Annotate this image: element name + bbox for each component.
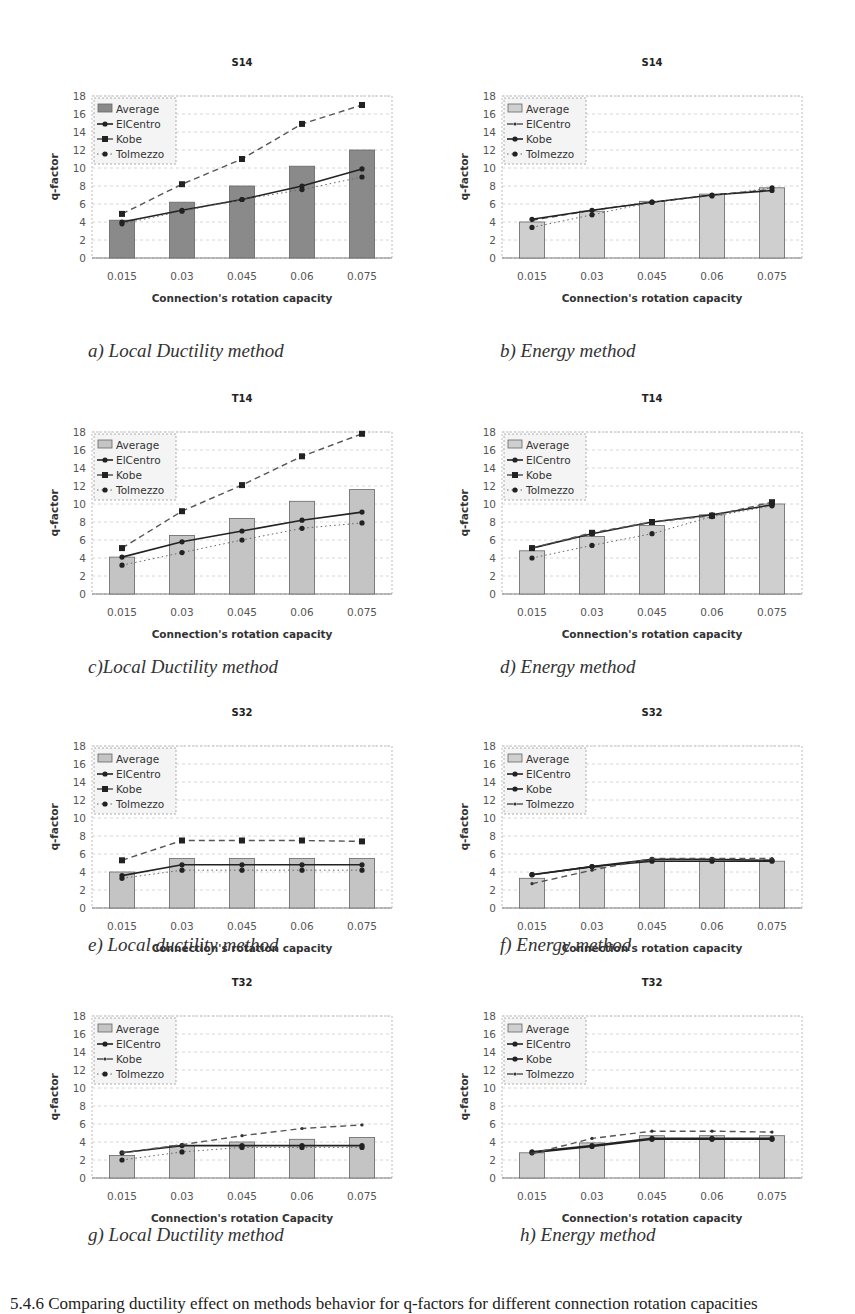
legend-entry: ElCentro — [116, 768, 161, 780]
x-tick-label: 0.075 — [757, 270, 787, 282]
y-tick-label: 14 — [73, 462, 87, 474]
x-tick-label: 0.015 — [517, 1190, 547, 1202]
y-tick-label: 12 — [73, 480, 86, 492]
y-tick-label: 14 — [483, 126, 497, 138]
y-axis-label: q-factor — [48, 153, 60, 201]
chart-title: T14 — [642, 393, 663, 404]
y-tick-label: 0 — [79, 902, 86, 914]
dot-marker-icon — [299, 862, 304, 867]
y-axis-label: q-factor — [458, 153, 470, 201]
dot-marker-icon — [360, 1123, 363, 1126]
y-tick-label: 12 — [73, 144, 86, 156]
dot-marker-icon — [239, 868, 244, 873]
square-marker-icon — [179, 181, 185, 187]
square-marker-icon — [512, 472, 518, 478]
dot-marker-icon — [512, 786, 517, 791]
y-tick-label: 2 — [489, 1154, 496, 1166]
x-axis-label: Connection's rotation Capacity — [151, 1212, 333, 1224]
y-tick-label: 12 — [483, 480, 496, 492]
x-tick-label: 0.03 — [580, 270, 603, 282]
dot-marker-icon — [239, 528, 244, 533]
square-marker-icon — [179, 838, 185, 844]
chart-legend: AverageElCentroKobeTolmezzo — [94, 748, 176, 814]
legend-entry: Average — [116, 753, 159, 765]
dot-marker-icon — [359, 510, 364, 515]
dot-marker-icon — [709, 514, 714, 519]
y-tick-label: 2 — [79, 570, 86, 582]
x-tick-label: 0.075 — [347, 270, 377, 282]
y-tick-label: 0 — [79, 588, 86, 600]
square-marker-icon — [359, 838, 365, 844]
legend-entry: Tolmezzo — [525, 148, 574, 160]
dot-marker-icon — [529, 217, 534, 222]
chart-legend: AverageElCentroKobeTolmezzo — [94, 98, 176, 164]
bar-average — [759, 188, 784, 258]
dot-marker-icon — [512, 1056, 517, 1061]
legend-entry: Tolmezzo — [115, 148, 164, 160]
bar-average — [639, 1136, 664, 1178]
dot-marker-icon — [529, 225, 534, 230]
legend-entry: ElCentro — [116, 118, 161, 130]
dot-marker-icon — [590, 869, 593, 872]
legend-entry: Average — [526, 439, 569, 451]
legend-swatch-icon — [98, 1024, 112, 1032]
x-tick-label: 0.045 — [227, 606, 257, 618]
legend-entry: ElCentro — [526, 1038, 571, 1050]
dot-marker-icon — [299, 1145, 304, 1150]
caption-a: a) Local Ductility method — [88, 340, 284, 362]
square-marker-icon — [589, 530, 595, 536]
legend-entry: Tolmezzo — [525, 798, 574, 810]
dot-marker-icon — [590, 1137, 593, 1140]
dot-marker-icon — [589, 212, 594, 217]
x-tick-label: 0.015 — [107, 1190, 137, 1202]
y-tick-label: 6 — [489, 534, 496, 546]
x-tick-label: 0.06 — [700, 920, 724, 932]
square-marker-icon — [359, 102, 365, 108]
figure-caption: 5.4.6 Comparing ductility effect on meth… — [10, 1294, 758, 1314]
y-tick-label: 2 — [489, 570, 496, 582]
y-tick-label: 18 — [73, 426, 86, 438]
x-axis-label: Connection's rotation capacity — [152, 292, 333, 304]
y-tick-label: 8 — [79, 180, 86, 192]
y-tick-label: 0 — [489, 588, 496, 600]
dot-marker-icon — [119, 555, 124, 560]
y-tick-label: 10 — [73, 812, 86, 824]
dot-marker-icon — [179, 550, 184, 555]
x-tick-label: 0.06 — [290, 270, 314, 282]
y-tick-label: 6 — [79, 1118, 86, 1130]
legend-entry: Tolmezzo — [115, 484, 164, 496]
bar-average — [699, 194, 724, 258]
legend-entry: Average — [116, 1023, 159, 1035]
x-tick-label: 0.03 — [580, 1190, 603, 1202]
y-tick-label: 10 — [483, 498, 496, 510]
square-marker-icon — [239, 482, 245, 488]
y-tick-label: 12 — [483, 794, 496, 806]
x-tick-label: 0.03 — [170, 920, 193, 932]
x-tick-label: 0.045 — [227, 270, 257, 282]
y-tick-label: 18 — [483, 426, 496, 438]
dot-marker-icon — [119, 876, 124, 881]
dot-marker-icon — [359, 868, 364, 873]
dot-marker-icon — [179, 862, 184, 867]
dot-marker-icon — [769, 185, 774, 190]
x-tick-label: 0.045 — [637, 606, 667, 618]
dot-marker-icon — [589, 1143, 594, 1148]
y-tick-label: 18 — [73, 1010, 86, 1022]
y-tick-label: 18 — [483, 1010, 496, 1022]
chart-panel-h: T320246810121416180.0150.030.0450.060.07… — [440, 962, 820, 1262]
dot-marker-icon — [513, 802, 516, 805]
y-tick-label: 6 — [79, 534, 86, 546]
dot-marker-icon — [512, 151, 517, 156]
legend-entry: Average — [116, 439, 159, 451]
y-tick-label: 4 — [79, 216, 86, 228]
dot-marker-icon — [239, 862, 244, 867]
bar-average — [699, 515, 724, 594]
bar-average — [289, 166, 314, 258]
bar-average — [699, 1136, 724, 1178]
legend-swatch-icon — [98, 754, 112, 762]
legend-swatch-icon — [98, 440, 112, 448]
y-tick-label: 12 — [483, 1064, 496, 1076]
dot-marker-icon — [102, 121, 107, 126]
chart-legend: AverageElCentroKobeTolmezzo — [504, 434, 586, 500]
x-tick-label: 0.03 — [170, 1190, 193, 1202]
